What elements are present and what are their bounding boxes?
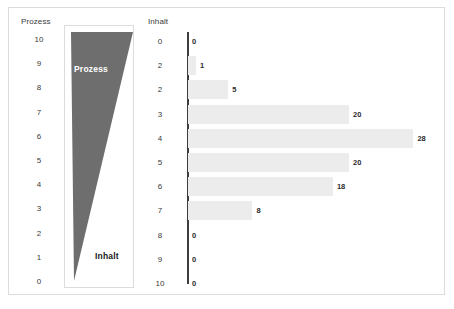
bar-category-label: 3 [140,110,180,120]
bar-value-label: 28 [417,134,425,144]
bar-value-label: 0 [192,37,196,47]
bar-value-label: 20 [353,110,361,120]
bar-row: 00 [140,31,440,53]
bar [188,129,413,148]
bar-value-label: 5 [232,85,236,95]
bar-row: 320 [140,104,440,126]
bar [188,56,196,75]
figure-frame: Prozess 109876543210 Prozess Inhalt Inha… [8,7,445,295]
prozess-tick-0: 0 [17,277,61,287]
bar-row: 520 [140,152,440,174]
bar-category-label: 2 [140,85,180,95]
bar-category-label: 4 [140,134,180,144]
bar-row: 25 [140,79,440,101]
wedge-panel: Prozess Inhalt [64,25,134,288]
bar-category-label: 9 [140,255,180,265]
bar-category-label: 6 [140,182,180,192]
bar-category-label: 8 [140,231,180,241]
bar-value-label: 0 [192,279,196,289]
bar-row: 78 [140,200,440,222]
inhalt-bar-chart: 002125320428520618788090100 [140,26,440,288]
prozess-tick-9: 9 [17,59,61,69]
inhalt-axis-title: Inhalt [148,17,168,26]
bar-value-label: 0 [192,231,196,241]
bar-value-label: 1 [200,61,204,71]
bar-row: 80 [140,225,440,247]
bar-category-label: 7 [140,206,180,216]
bar-value-label: 0 [192,255,196,265]
bar [188,80,228,99]
prozess-tick-6: 6 [17,132,61,142]
bar-row: 90 [140,249,440,271]
bar-value-label: 8 [256,206,260,216]
bar-category-label: 5 [140,158,180,168]
prozess-tick-10: 10 [17,35,61,45]
prozess-tick-7: 7 [17,108,61,118]
bar [188,201,252,220]
bar [188,177,333,196]
prozess-scale: 109876543210 [17,26,61,288]
prozess-tick-8: 8 [17,83,61,93]
wedge-label-prozess: Prozess [74,64,108,74]
bar [188,153,349,172]
wedge-label-inhalt: Inhalt [95,251,119,261]
bar-value-label: 20 [353,158,361,168]
bar-row: 21 [140,55,440,77]
prozess-tick-4: 4 [17,180,61,190]
bar-value-label: 18 [337,182,345,192]
bar-category-label: 10 [140,279,180,289]
prozess-axis-title: Prozess [21,17,51,26]
prozess-tick-3: 3 [17,204,61,214]
prozess-tick-5: 5 [17,156,61,166]
prozess-tick-2: 2 [17,229,61,239]
bar-row: 100 [140,273,440,295]
bar-row: 618 [140,176,440,198]
bar [188,105,349,124]
bar-category-label: 2 [140,61,180,71]
bar-category-label: 0 [140,37,180,47]
bar-row: 428 [140,128,440,150]
prozess-tick-1: 1 [17,253,61,263]
